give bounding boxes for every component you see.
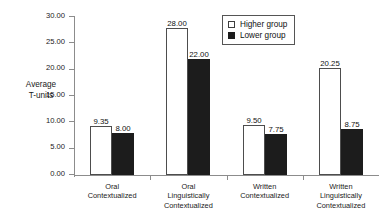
x-axis-tick [150, 175, 151, 180]
legend-swatch-lower-icon [228, 32, 235, 39]
bar-value-label: 8.75 [344, 120, 359, 129]
y-axis-tick-label: 15.00 [46, 90, 65, 99]
bar-value-label: 28.00 [167, 19, 187, 28]
x-axis-tick [227, 175, 228, 180]
y-axis-tick: 10.00 [69, 121, 75, 122]
bar-chart: Average T-units 0.005.0010.0015.0020.002… [0, 0, 391, 215]
y-axis-tick: 25.00 [69, 42, 75, 43]
y-axis-tick: 0.00 [69, 174, 75, 175]
bar-higher-group: 28.00 [166, 28, 188, 175]
bar-lower-group: 8.00 [112, 133, 134, 175]
bar-higher-group: 9.50 [243, 125, 265, 175]
bar-value-label: 7.75 [268, 125, 283, 134]
y-axis-tick-label: 30.00 [46, 11, 65, 20]
y-axis-tick: 20.00 [69, 69, 75, 70]
y-axis-line [74, 17, 75, 177]
y-axis-tick: 5.00 [69, 148, 75, 149]
bar-higher-group: 9.35 [90, 126, 112, 175]
bar-lower-group: 7.75 [265, 134, 287, 175]
y-axis-tick-label: 5.00 [50, 142, 65, 151]
bar-higher-group: 20.25 [319, 68, 341, 175]
y-axis-tick: 30.00 [69, 16, 75, 17]
chart-legend: Higher groupLower group [222, 15, 295, 45]
x-axis-category-label: Written Linguistically Contextualized [293, 182, 389, 210]
bar-lower-group: 8.75 [341, 129, 363, 175]
y-axis-tick-label: 0.00 [50, 169, 65, 178]
legend-label: Higher group [240, 20, 287, 29]
bar-value-label: 20.25 [320, 59, 340, 68]
legend-item: Higher group [228, 19, 287, 30]
bar-value-label: 9.35 [93, 117, 108, 126]
bar-value-label: 9.50 [246, 116, 261, 125]
bar-lower-group: 22.00 [188, 59, 210, 175]
bar-value-label: 8.00 [115, 124, 130, 133]
y-axis-tick-label: 20.00 [46, 63, 65, 72]
y-axis-tick-label: 25.00 [46, 37, 65, 46]
x-axis-tick [303, 175, 304, 180]
bar-value-label: 22.00 [189, 50, 209, 59]
y-axis-tick-label: 10.00 [46, 116, 65, 125]
legend-swatch-higher-icon [228, 21, 235, 28]
legend-item: Lower group [228, 30, 287, 41]
y-axis-tick: 15.00 [69, 95, 75, 96]
legend-label: Lower group [240, 31, 286, 40]
